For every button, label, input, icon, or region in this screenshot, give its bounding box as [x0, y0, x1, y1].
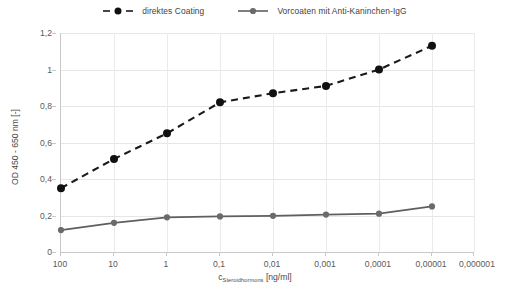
- y-tick-label: 0,2: [40, 211, 52, 221]
- data-point: [216, 98, 224, 106]
- chart-container: direktes Coating Vorcoaten mit Anti-Kani…: [0, 0, 510, 296]
- series-points-vorcoaten: [58, 203, 435, 233]
- x-tick-label: 0,0001: [365, 259, 391, 269]
- x-tick-label: 10: [108, 259, 118, 269]
- series-points-direktes-coating: [57, 42, 436, 192]
- x-tick-label: 0,001: [314, 259, 336, 269]
- data-point: [110, 155, 118, 163]
- x-tick-label: 0,01: [264, 259, 281, 269]
- x-tick-mark: [166, 252, 167, 256]
- series-plot: [61, 33, 474, 252]
- data-point: [323, 211, 329, 217]
- y-tick-mark: [52, 106, 56, 107]
- plot-area: [60, 33, 474, 253]
- series-line-vorcoaten: [61, 206, 432, 230]
- gridline-vertical: [474, 33, 475, 252]
- data-point: [269, 89, 277, 97]
- y-tick-mark: [52, 33, 56, 34]
- y-tick-label: 0,6: [40, 138, 52, 148]
- x-axis-title-subscript: Steroidhormons: [223, 277, 264, 283]
- x-tick-mark: [325, 252, 326, 256]
- x-axis-title-unit: [ng/ml]: [264, 272, 292, 282]
- x-tick-mark: [272, 252, 273, 256]
- data-point: [111, 220, 117, 226]
- legend-marker-dashed-icon: [103, 6, 137, 16]
- legend-entry-direktes-coating: direktes Coating: [103, 6, 204, 16]
- x-tick-mark: [219, 252, 220, 256]
- data-point: [428, 42, 436, 50]
- chart-legend: direktes Coating Vorcoaten mit Anti-Kani…: [0, 6, 510, 16]
- y-tick-label: 0,4: [40, 174, 52, 184]
- x-tick-label: 0,00001: [415, 259, 446, 269]
- y-tick-mark: [52, 216, 56, 217]
- data-point: [58, 227, 64, 233]
- legend-marker-solid-icon: [238, 6, 272, 16]
- y-tick-label: 1,2: [40, 28, 52, 38]
- x-tick-label: 0,000001: [459, 259, 495, 269]
- x-axis-ticks: 100 10 1 0,1 0,01 0,001 0,0001 0,00001 0…: [0, 252, 510, 274]
- y-tick-mark: [52, 143, 56, 144]
- y-axis-ticks: 1,2 1 0,8 0,6 0,4 0,2 0: [0, 33, 56, 252]
- legend-entry-vorcoaten: Vorcoaten mit Anti-Kaninchen-IgG: [238, 6, 406, 16]
- data-point: [375, 66, 383, 74]
- x-tick-mark: [60, 252, 61, 256]
- x-tick-label: 0,1: [213, 259, 225, 269]
- x-tick-label: 1: [164, 259, 169, 269]
- x-tick-mark: [378, 252, 379, 256]
- x-tick-mark: [473, 252, 474, 256]
- y-axis-title: OD 450 - 650 nm [-]: [10, 87, 20, 207]
- data-point: [376, 211, 382, 217]
- y-tick-mark: [52, 179, 56, 180]
- x-tick-mark: [431, 252, 432, 256]
- data-point: [429, 203, 435, 209]
- data-point: [322, 82, 330, 90]
- x-tick-label: 100: [53, 259, 67, 269]
- x-axis-title: cSteroidhormons [ng/ml]: [0, 272, 510, 283]
- legend-label-direktes-coating: direktes Coating: [142, 6, 204, 16]
- data-point: [163, 129, 171, 137]
- data-point: [217, 213, 223, 219]
- y-tick-mark: [52, 70, 56, 71]
- x-tick-mark: [113, 252, 114, 256]
- data-point: [57, 184, 65, 192]
- data-point: [270, 213, 276, 219]
- y-tick-label: 0,8: [40, 101, 52, 111]
- data-point: [164, 214, 170, 220]
- legend-label-vorcoaten: Vorcoaten mit Anti-Kaninchen-IgG: [277, 6, 406, 16]
